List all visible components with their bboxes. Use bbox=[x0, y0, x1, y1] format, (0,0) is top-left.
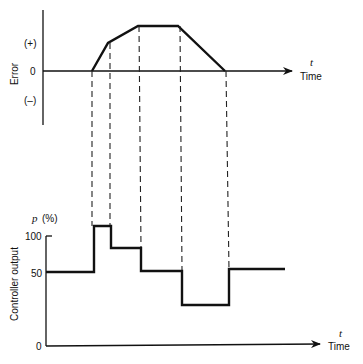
guide-line-4 bbox=[180, 26, 182, 270]
guide-line-3 bbox=[139, 26, 141, 248]
output-axis-label: Controller output bbox=[9, 247, 20, 321]
output-tick-100: 100 bbox=[25, 231, 42, 242]
error-tick-plus: (+) bbox=[24, 38, 37, 49]
output-unit: (%) bbox=[42, 213, 58, 224]
event-guide-lines bbox=[92, 26, 229, 270]
controller-response-diagram: (+) 0 (–) Error t Time p (%) 100 50 0 Co… bbox=[0, 0, 363, 364]
guide-line-5 bbox=[226, 71, 229, 270]
output-time-axis-arrow bbox=[46, 344, 320, 346]
output-time-label: Time bbox=[328, 341, 350, 352]
controller-output-step-curve bbox=[46, 226, 285, 305]
error-t-symbol: t bbox=[310, 56, 314, 68]
error-tick-zero: 0 bbox=[30, 66, 36, 77]
error-curve bbox=[92, 26, 225, 71]
output-t-symbol: t bbox=[339, 327, 343, 339]
error-axis-label: Error bbox=[9, 62, 20, 85]
error-tick-minus: (–) bbox=[24, 95, 36, 106]
output-p-symbol: p bbox=[31, 212, 38, 224]
error-chart: (+) 0 (–) Error t Time bbox=[9, 10, 322, 125]
controller-output-chart: p (%) 100 50 0 Controller output t Time bbox=[9, 212, 350, 352]
output-tick-50: 50 bbox=[31, 268, 43, 279]
error-time-label: Time bbox=[300, 71, 322, 82]
output-tick-0: 0 bbox=[36, 341, 42, 352]
